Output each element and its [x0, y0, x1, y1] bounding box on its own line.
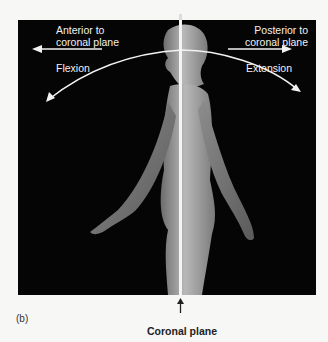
anterior-label: Anterior to coronal plane	[56, 24, 119, 48]
coronal-line-top-tick	[179, 14, 182, 20]
curved-arrow-left-icon	[46, 92, 55, 102]
up-arrow-icon	[176, 298, 185, 314]
arrow-left-icon	[32, 45, 42, 53]
posterior-label: Posterior to coronal plane	[245, 24, 308, 48]
extension-label: Extension	[246, 62, 292, 74]
photo-panel: Anterior to coronal plane Posterior to c…	[18, 20, 316, 295]
panel-label: (b)	[16, 313, 28, 324]
coronal-plane-caption: Coronal plane	[0, 325, 328, 337]
flexion-label: Flexion	[56, 62, 90, 74]
